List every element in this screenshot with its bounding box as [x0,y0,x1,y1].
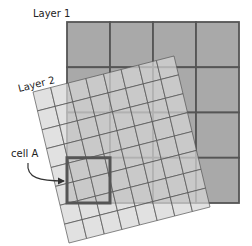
layer-1-cell [196,22,239,67]
layer-1-cell [110,22,153,67]
layer-2-cell [188,188,210,211]
layer-1-cell [67,22,110,67]
layer-1-cell [196,113,239,158]
cell-a-label: cell A [11,148,38,159]
layer-1-label: Layer 1 [33,8,70,19]
layer-1-cell [196,67,239,112]
grid-diagram: Layer 1 Layer 2 cell A [0,0,252,246]
